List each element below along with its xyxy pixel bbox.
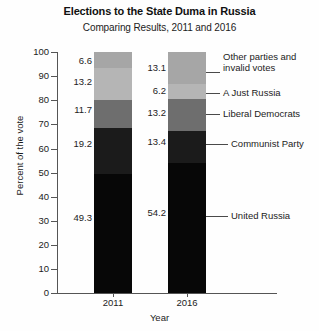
value-label-2011-united-russia: 49.3 — [58, 212, 92, 223]
y-tick-label-0: 0 — [9, 287, 49, 298]
value-label-2016-a-just-russia: 6.2 — [132, 85, 166, 96]
y-tick-50 — [51, 173, 57, 174]
bar-2016-segment-united-russia[interactable] — [168, 163, 206, 293]
value-label-2011-a-just-russia: 13.2 — [58, 76, 92, 87]
value-label-2011-communist-party: 19.2 — [58, 138, 92, 149]
value-label-2011-liberal-democrats: 11.7 — [58, 104, 92, 115]
bar-2011-segment-a-just-russia[interactable] — [94, 68, 132, 100]
annotation-a-just-russia: A Just Russia — [223, 88, 281, 99]
y-tick-label-10: 10 — [9, 263, 49, 274]
annotation-other-line2: invalid votes — [223, 63, 296, 74]
value-label-2016-liberal-democrats: 13.2 — [132, 107, 166, 118]
value-label-2016-other: 13.1 — [132, 62, 166, 73]
y-tick-100 — [51, 52, 57, 53]
leader-line-united-russia — [206, 216, 228, 217]
bar-2011-segment-united-russia[interactable] — [94, 174, 132, 293]
annotation-liberal-democrats: Liberal Democrats — [223, 109, 300, 120]
annotation-united-russia: United Russia — [231, 211, 290, 222]
y-tick-label-90: 90 — [9, 70, 49, 81]
bar-2016-segment-other[interactable] — [168, 52, 206, 84]
bar-2016-segment-a-just-russia[interactable] — [168, 84, 206, 99]
bar-2016-segment-liberal-democrats[interactable] — [168, 99, 206, 131]
plot-area: 100 90 80 70 60 50 40 30 20 10 0 Percent… — [0, 0, 319, 331]
y-tick-30 — [51, 221, 57, 222]
annotation-other: Other parties and invalid votes — [223, 52, 296, 73]
x-tick-label-2011: 2011 — [83, 297, 143, 308]
bar-2016-segment-communist-party[interactable] — [168, 131, 206, 163]
leader-line-other — [206, 72, 220, 73]
y-tick-40 — [51, 197, 57, 198]
y-tick-20 — [51, 245, 57, 246]
value-label-2016-united-russia: 54.2 — [132, 207, 166, 218]
y-tick-80 — [51, 100, 57, 101]
x-axis-label: Year — [0, 312, 319, 323]
y-tick-label-20: 20 — [9, 239, 49, 250]
annotation-communist-party: Communist Party — [231, 139, 304, 150]
bar-2016[interactable] — [168, 52, 206, 293]
y-axis-line — [57, 52, 58, 293]
y-tick-60 — [51, 149, 57, 150]
bar-2011[interactable] — [94, 52, 132, 293]
y-tick-70 — [51, 124, 57, 125]
x-tick-label-2016: 2016 — [157, 297, 217, 308]
y-tick-label-30: 30 — [9, 215, 49, 226]
annotation-other-line1: Other parties and — [223, 52, 296, 63]
leader-line-a-just-russia — [206, 93, 220, 94]
chart-root: Elections to the State Duma in Russia Co… — [0, 0, 319, 331]
x-axis-line — [57, 293, 277, 294]
y-tick-0 — [51, 293, 57, 294]
leader-line-liberal-democrats — [206, 114, 220, 115]
y-tick-label-100: 100 — [9, 46, 49, 57]
bar-2011-segment-communist-party[interactable] — [94, 128, 132, 174]
y-tick-90 — [51, 76, 57, 77]
leader-line-communist-party — [206, 144, 228, 145]
bar-2011-segment-liberal-democrats[interactable] — [94, 100, 132, 128]
y-tick-10 — [51, 269, 57, 270]
bar-2011-segment-other[interactable] — [94, 52, 132, 68]
value-label-2011-other: 6.6 — [58, 55, 92, 66]
value-label-2016-communist-party: 13.4 — [132, 136, 166, 147]
y-axis-label: Percent of the vote — [14, 101, 25, 211]
